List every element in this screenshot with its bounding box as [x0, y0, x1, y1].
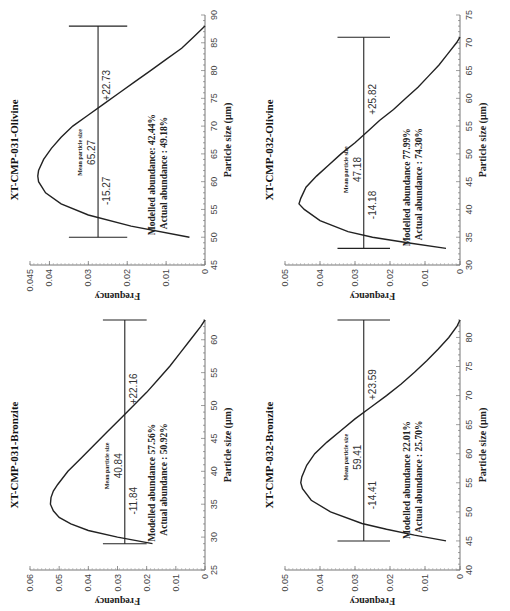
- x-tick-label: 50: [464, 507, 474, 517]
- plus-deviation: +22.16: [128, 373, 139, 404]
- x-tick-label: 45: [209, 260, 219, 270]
- y-tick-label: 0.01: [171, 574, 181, 592]
- actual-abundance: Actual abundance : 50.92%: [159, 423, 169, 535]
- actual-abundance: Actual abundance : 25.70%: [414, 420, 424, 532]
- x-tick-label: 45: [464, 177, 474, 187]
- x-tick-label: 80: [464, 332, 474, 342]
- axes: 40455055606570758000.010.020.030.040.05: [280, 320, 474, 592]
- x-tick-label: 70: [464, 391, 474, 401]
- x-tick-label: 40: [464, 204, 474, 214]
- y-tick-label: 0: [200, 574, 210, 579]
- y-tick-label: 0.04: [315, 574, 325, 592]
- x-tick-label: 50: [464, 149, 474, 159]
- plus-deviation: +25.82: [367, 84, 378, 115]
- distribution-curve: [299, 37, 460, 248]
- x-tick-label: 70: [209, 121, 219, 131]
- x-tick-label: 55: [209, 204, 219, 214]
- y-axis-title: Frequency: [95, 596, 140, 607]
- x-tick-label: 65: [464, 66, 474, 76]
- mean-label: Mean particle size: [104, 442, 110, 489]
- mean-value: 47.18: [352, 157, 363, 182]
- y-tick-label: 0.01: [420, 574, 430, 592]
- minus-deviation: -14.18: [367, 190, 378, 219]
- y-tick-label: 0.01: [161, 269, 171, 287]
- y-tick-label: 0.03: [350, 574, 360, 592]
- x-tick-label: 65: [464, 420, 474, 430]
- chart-panel-031-olivine: 4550556065707580859000.010.020.030.040.0…: [0, 0, 255, 305]
- mean-value: 65.27: [86, 139, 97, 164]
- x-tick-label: 40: [464, 565, 474, 575]
- y-tick-label: 0.02: [385, 574, 395, 592]
- y-tick-label: 0.04: [315, 269, 325, 287]
- y-tick-label: 0.02: [142, 574, 152, 592]
- y-tick-label: 0.04: [83, 574, 93, 592]
- minus-deviation: -15.27: [101, 176, 112, 205]
- y-tick-label: 0: [455, 574, 465, 579]
- modelled-abundance: Modelled abundance 57.56%: [147, 424, 157, 542]
- y-tick-label: 0.05: [280, 574, 290, 592]
- x-tick-label: 55: [464, 121, 474, 131]
- y-tick-label: 0: [200, 269, 210, 274]
- mean-label: Mean particle size: [343, 433, 349, 480]
- mean-value: 59.41: [352, 444, 363, 469]
- x-tick-label: 80: [209, 66, 219, 76]
- x-tick-label: 50: [209, 232, 219, 242]
- x-axis-title: Particle size (μm): [222, 408, 234, 483]
- x-tick-label: 50: [209, 401, 219, 411]
- modelled-abundance: Modelled abundance 77.99%: [402, 128, 412, 246]
- axes: 3035404550556065707500.010.020.030.040.0…: [280, 10, 474, 287]
- y-tick-label: 0.03: [113, 574, 123, 592]
- chart-title: XT-CMP-031-Olivine: [8, 99, 20, 200]
- chart-svg: 253035404550556000.010.020.030.040.050.0…: [0, 305, 255, 610]
- mean-range-bar: [338, 37, 391, 248]
- y-tick-label: 0.04: [44, 269, 54, 287]
- y-axis-title: Frequency: [350, 291, 395, 302]
- x-tick-label: 45: [464, 536, 474, 546]
- mean-range-bar: [103, 320, 147, 544]
- chart-title: XT-CMP-032-Olivine: [263, 99, 275, 200]
- x-tick-label: 30: [464, 260, 474, 270]
- chart-svg: 4550556065707580859000.010.020.030.040.0…: [0, 0, 255, 305]
- x-axis-title: Particle size (μm): [477, 103, 489, 178]
- minus-deviation: -11.84: [128, 486, 139, 514]
- chart-title: XT-CMP-032-Bronzite: [263, 401, 275, 508]
- chart-panel-031-bronzite: 253035404550556000.010.020.030.040.050.0…: [0, 305, 255, 610]
- axes: 4550556065707580859000.010.020.030.040.0…: [25, 10, 219, 292]
- y-tick-label: 0.05: [280, 269, 290, 287]
- x-axis-title: Particle size (μm): [477, 408, 489, 483]
- y-tick-label: 0.02: [385, 269, 395, 287]
- modelled-abundance: Modelled abundance: 42.44%: [147, 114, 157, 235]
- x-tick-label: 75: [464, 362, 474, 372]
- chart-svg: 3035404550556065707500.010.020.030.040.0…: [255, 0, 510, 305]
- x-axis-title: Particle size (μm): [222, 103, 234, 178]
- y-tick-label: 0.03: [350, 269, 360, 287]
- x-tick-label: 60: [464, 93, 474, 103]
- x-tick-label: 65: [209, 149, 219, 159]
- x-tick-label: 60: [209, 177, 219, 187]
- chart-svg: 40455055606570758000.010.020.030.040.05P…: [255, 305, 510, 610]
- y-tick-label: 0.06: [25, 574, 35, 592]
- mean-range-bar: [338, 320, 391, 541]
- actual-abundance: Actual abundance : 74.30%: [414, 128, 424, 240]
- x-tick-label: 60: [464, 449, 474, 459]
- mean-label: Mean particle size: [77, 129, 83, 176]
- mean-label: Mean particle size: [343, 146, 349, 193]
- y-tick-label: 0.05: [54, 574, 64, 592]
- x-tick-label: 75: [209, 93, 219, 103]
- mean-value: 40.84: [113, 453, 124, 478]
- x-tick-label: 85: [209, 38, 219, 48]
- distribution-curve: [38, 26, 205, 237]
- plus-deviation: +23.59: [367, 369, 378, 400]
- chart-title: XT-CMP-031-Bronzite: [8, 401, 20, 508]
- x-tick-label: 35: [209, 499, 219, 509]
- y-tick-label: 0.01: [420, 269, 430, 287]
- x-tick-label: 40: [209, 466, 219, 476]
- y-axis-title: Frequency: [350, 596, 395, 607]
- y-tick-label: 0: [455, 269, 465, 274]
- chart-panel-032-bronzite: 40455055606570758000.010.020.030.040.05P…: [255, 305, 510, 610]
- x-tick-label: 90: [209, 10, 219, 20]
- x-tick-label: 60: [209, 335, 219, 345]
- minus-deviation: -14.41: [367, 480, 378, 509]
- y-axis-title: Frequency: [95, 291, 140, 302]
- x-tick-label: 70: [464, 38, 474, 48]
